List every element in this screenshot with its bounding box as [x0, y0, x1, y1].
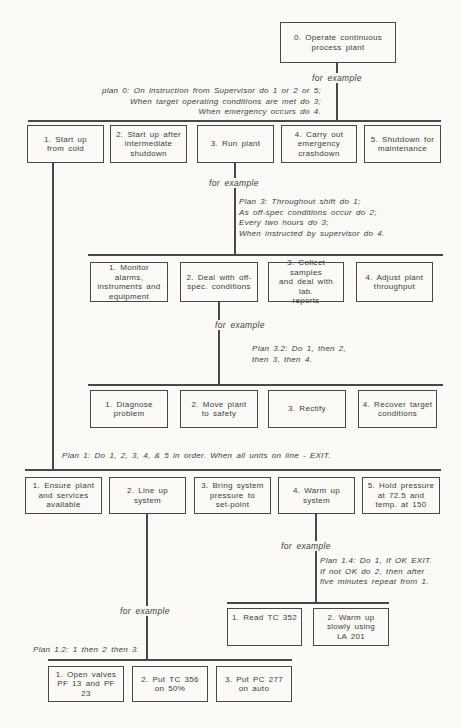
connector-runplant-bar	[88, 254, 443, 256]
task-box-1-3-bring-pressure: 3. Bring system pressure to set-point	[194, 477, 271, 514]
plan-1-text: Plan 1: Do 1, 2, 3, 4, & 5 in order. Whe…	[62, 451, 331, 462]
task-box-1-5-hold-pressure: 5. Hold pressure at 72.5 and temp. at 15…	[362, 477, 440, 514]
plan-0-text: plan 0: On instruction from Supervisor d…	[30, 86, 321, 118]
task-box-1-2-line-up: 2. Line up system	[109, 477, 186, 514]
for-example-label-lineup: for example	[117, 606, 173, 616]
plan-3-2-text: Plan 3.2: Do 1, then 2, then 3, then 4.	[252, 344, 382, 365]
task-box-1-4-1-read-tc352: 1. Read TC 352	[227, 608, 302, 646]
for-example-label-offspec: for example	[212, 320, 268, 330]
task-box-3-2-1-diagnose: 1. Diagnose problem	[90, 390, 168, 428]
task-box-4-emergency: 4. Carry out emergency crashdown	[281, 125, 357, 163]
plan-3-text: Plan 3: Throughout shift do 1; As off-sp…	[239, 197, 454, 239]
connector-lineup-bar	[48, 659, 292, 661]
connector-runplant-drop	[234, 163, 236, 255]
task-box-1-4-2-warm-slowly: 2. Warm up slowly using LA 201	[313, 608, 389, 646]
task-box-5-shutdown: 5. Shutdown for maintenance	[364, 125, 441, 163]
task-box-3-4-adjust-throughput: 4. Adjust plant throughput	[356, 262, 433, 302]
for-example-label-warmup: for example	[278, 541, 334, 551]
connector-root-drop	[336, 62, 338, 121]
connector-warmup-drop	[315, 514, 317, 603]
connector-offspec-drop	[218, 302, 220, 385]
task-box-1-2-2-put-tc356: 2. Put TC 356 on 50%	[132, 666, 208, 702]
plan-1-4-text: Plan 1.4: Do 1, If OK EXIT. If not OK do…	[320, 556, 455, 588]
task-box-1-startup-cold: 1. Start up from cold	[27, 125, 104, 163]
task-box-3-2-3-rectify: 3. Rectify	[268, 390, 346, 428]
connector-startup-drop	[52, 163, 54, 470]
task-box-3-1-monitor-alarms: 1. Monitor alarms, instruments and equip…	[90, 262, 168, 302]
connector-startup-bar	[25, 469, 441, 471]
task-box-3-2-4-recover: 4. Recover target conditions	[358, 390, 437, 428]
task-box-1-1-ensure-plant: 1. Ensure plant and services available	[25, 477, 102, 514]
for-example-label-root: for example	[309, 73, 365, 83]
hta-diagram: 0. Operate continuous process plant 1. S…	[0, 0, 461, 728]
connector-lineup-drop	[146, 514, 148, 660]
task-box-3-3-collect-samples: 3. Collect samples and deal with lab. re…	[268, 262, 344, 302]
connector-warmup-bar	[227, 602, 389, 604]
task-box-1-2-1-open-valves: 1. Open valves PF 13 and PF 23	[48, 666, 124, 702]
task-box-2-startup-after: 2. Start up after intermediate shutdown	[110, 125, 187, 163]
task-box-3-2-offspec: 2. Deal with off- spec. conditions	[180, 262, 258, 302]
plan-1-2-text: Plan 1.2: 1 then 2 then 3.	[33, 645, 139, 656]
connector-level1-bar	[28, 120, 441, 122]
task-box-1-4-warm-up: 4. Warm up system	[278, 477, 355, 514]
task-box-3-run-plant: 3. Run plant	[197, 125, 274, 163]
task-box-0-operate-plant: 0. Operate continuous process plant	[280, 22, 396, 63]
connector-offspec-bar	[88, 384, 443, 386]
task-box-3-2-2-move-safety: 2. Move plant to safety	[180, 390, 258, 428]
task-box-1-2-3-put-pc277: 3. Put PC 277 on auto	[216, 666, 292, 702]
for-example-label-runplant: for example	[206, 178, 262, 188]
